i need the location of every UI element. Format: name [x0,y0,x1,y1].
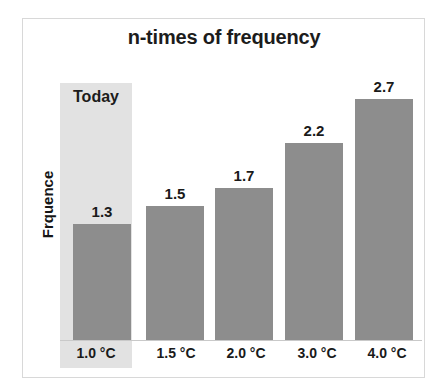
x-axis-line [60,340,422,341]
chart-title: n-times of frequency [0,26,448,49]
x-axis-tick-labels: 1.0 °C1.5 °C2.0 °C3.0 °C4.0 °C [0,345,448,373]
x-tick-label: 2.0 °C [210,345,282,361]
x-tick-label: 1.0 °C [60,345,132,361]
today-highlight-band [60,83,132,368]
y-axis-label: Frquence [39,150,56,260]
x-tick-label: 1.5 °C [140,345,212,361]
x-tick-label: 3.0 °C [281,345,353,361]
today-annotation-label: Today [60,88,132,106]
x-tick-label: 4.0 °C [351,345,423,361]
